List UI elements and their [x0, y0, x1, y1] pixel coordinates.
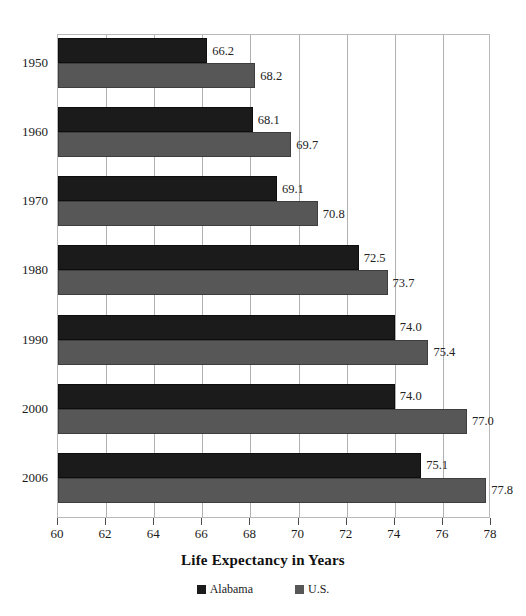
bar-value-label: 74.0	[395, 321, 422, 334]
bar-value-label: 77.8	[486, 484, 513, 497]
bar-alabama-2006[interactable]	[58, 453, 421, 478]
x-axis-tick	[201, 518, 202, 525]
x-axis-tick	[249, 518, 250, 525]
bar-value-label: 68.2	[255, 69, 282, 82]
bar-row: 70.8	[58, 201, 491, 226]
x-axis-tick-label: 62	[99, 527, 112, 540]
bar-u-s--2000[interactable]	[58, 409, 467, 434]
bar-row: 69.7	[58, 132, 491, 157]
bar-value-label: 74.0	[395, 390, 422, 403]
bar-u-s--1970[interactable]	[58, 201, 318, 226]
x-axis-tick-label: 70	[291, 527, 304, 540]
bar-value-label: 77.0	[467, 415, 494, 428]
bar-row: 75.4	[58, 340, 491, 365]
x-axis-tick	[394, 518, 395, 525]
bar-alabama-1960[interactable]	[58, 107, 253, 132]
bar-value-label: 72.5	[359, 251, 386, 264]
category-label-1980: 1980	[0, 263, 48, 276]
bar-value-label: 75.1	[421, 459, 448, 472]
bar-alabama-2000[interactable]	[58, 384, 395, 409]
legend-label: Alabama	[210, 582, 253, 597]
x-axis-tick-label: 76	[435, 527, 448, 540]
bar-row: 74.0	[58, 315, 491, 340]
x-axis-tick-label: 72	[339, 527, 352, 540]
category-axis: 1950196019701980199020002006	[0, 34, 50, 518]
bar-row: 68.2	[58, 63, 491, 88]
bar-alabama-1980[interactable]	[58, 245, 359, 270]
chart-legend: AlabamaU.S.	[0, 582, 526, 597]
x-axis-tick-label: 60	[51, 527, 64, 540]
bar-value-label: 68.1	[253, 113, 280, 126]
category-label-2006: 2006	[0, 470, 48, 483]
legend-label: U.S.	[308, 582, 329, 597]
x-axis-tick	[442, 518, 443, 525]
bar-row: 69.1	[58, 176, 491, 201]
x-axis-tick-label: 78	[484, 527, 497, 540]
legend-item-u-s-[interactable]: U.S.	[295, 582, 329, 597]
bar-value-label: 69.1	[277, 182, 304, 195]
bar-row: 74.0	[58, 384, 491, 409]
bar-row: 68.1	[58, 107, 491, 132]
bar-u-s--1990[interactable]	[58, 340, 428, 365]
bar-alabama-1990[interactable]	[58, 315, 395, 340]
x-axis-tick	[153, 518, 154, 525]
category-label-2000: 2000	[0, 401, 48, 414]
bar-row: 75.1	[58, 453, 491, 478]
legend-item-alabama[interactable]: Alabama	[197, 582, 253, 597]
category-label-1990: 1990	[0, 332, 48, 345]
bar-value-label: 66.2	[207, 44, 234, 57]
bar-row: 73.7	[58, 270, 491, 295]
x-axis: 60626466687072747678	[57, 518, 490, 548]
bar-row: 72.5	[58, 245, 491, 270]
x-axis-title: Life Expectancy in Years	[0, 552, 526, 569]
x-axis-tick-label: 68	[243, 527, 256, 540]
bar-value-label: 69.7	[291, 138, 318, 151]
bar-alabama-1970[interactable]	[58, 176, 277, 201]
bar-row: 66.2	[58, 38, 491, 63]
bar-u-s--1950[interactable]	[58, 63, 255, 88]
bar-u-s--1960[interactable]	[58, 132, 291, 157]
x-axis-tick	[105, 518, 106, 525]
bar-u-s--2006[interactable]	[58, 478, 486, 503]
bar-value-label: 73.7	[388, 276, 415, 289]
x-axis-tick	[490, 518, 491, 525]
x-axis-tick	[57, 518, 58, 525]
bar-u-s--1980[interactable]	[58, 270, 388, 295]
life-expectancy-bar-chart: 1950196019701980199020002006 66.268.268.…	[0, 0, 526, 616]
legend-swatch-icon	[197, 585, 206, 594]
category-label-1960: 1960	[0, 125, 48, 138]
bar-row: 77.0	[58, 409, 491, 434]
category-label-1950: 1950	[0, 56, 48, 69]
category-label-1970: 1970	[0, 194, 48, 207]
x-axis-tick	[298, 518, 299, 525]
plot-area: 66.268.268.169.769.170.872.573.774.075.4…	[57, 34, 490, 518]
x-axis-tick-label: 64	[147, 527, 160, 540]
bar-row: 77.8	[58, 478, 491, 503]
legend-swatch-icon	[295, 585, 304, 594]
x-axis-tick	[346, 518, 347, 525]
x-axis-tick-label: 66	[195, 527, 208, 540]
x-axis-tick-label: 74	[387, 527, 400, 540]
bar-alabama-1950[interactable]	[58, 38, 207, 63]
bar-value-label: 75.4	[428, 346, 455, 359]
bar-value-label: 70.8	[318, 207, 345, 220]
